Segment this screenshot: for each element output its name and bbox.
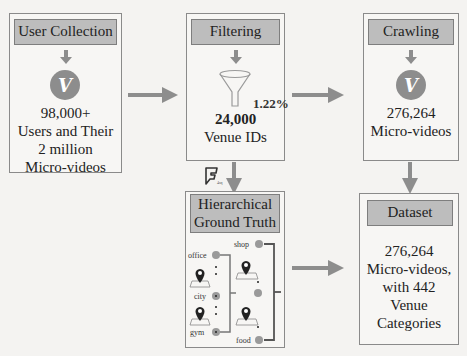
ground-truth-title-line1: Hierarchical xyxy=(198,196,272,213)
foursquare-sub: 4sq xyxy=(217,180,223,185)
vine-logo-icon: V xyxy=(50,70,80,100)
vine-logo-icon: V xyxy=(396,70,426,100)
ground-truth-title-line2: Ground Truth xyxy=(194,214,276,231)
dataset-categories-label: Categories xyxy=(360,314,458,332)
svg-text:gym: gym xyxy=(190,328,205,337)
venue-hierarchy-tree: office city gym shop food xyxy=(186,237,286,347)
down-arrow-icon xyxy=(402,50,422,70)
ground-truth-header: Hierarchical Ground Truth xyxy=(190,194,280,233)
dataset-venue-label: Venue xyxy=(360,296,458,314)
video-count: 276,264 xyxy=(364,104,458,122)
filtering-header: Filtering xyxy=(191,19,280,45)
dataset-header: Dataset xyxy=(367,200,453,226)
filtering-box: Filtering 1.22% 24,000 Venue IDs xyxy=(186,13,285,161)
down-arrow-icon xyxy=(227,50,247,70)
user-collection-box: User Collection V 98,000+ Users and Thei… xyxy=(9,13,122,173)
funnel-icon xyxy=(215,70,255,110)
down-arrow-icon xyxy=(57,50,77,70)
location-pin-icon xyxy=(236,261,258,279)
crawling-header: Crawling xyxy=(368,19,454,45)
svg-text:city: city xyxy=(194,292,206,301)
videos-label: Micro-videos xyxy=(364,122,458,140)
dataset-videos-label: Micro-videos, xyxy=(360,260,458,278)
video-count: 2 million xyxy=(10,140,121,158)
user-count: 98,000+ xyxy=(10,104,121,122)
svg-text:shop: shop xyxy=(234,240,249,249)
dataset-video-count: 276,264 xyxy=(360,242,458,260)
videos-label: Micro-videos xyxy=(10,158,121,176)
location-pin-icon xyxy=(190,269,210,287)
location-pin-icon xyxy=(236,307,258,325)
venue-count: 24,000 xyxy=(187,110,284,128)
user-collection-header: User Collection xyxy=(14,19,117,45)
svg-text:food: food xyxy=(236,336,251,345)
dataset-category-count: with 442 xyxy=(360,278,458,296)
ground-truth-box: Hierarchical Ground Truth office city gy… xyxy=(185,191,285,348)
location-pin-icon xyxy=(190,307,210,325)
crawling-box: Crawling V 276,264 Micro-videos xyxy=(363,13,459,161)
users-label: Users and Their xyxy=(10,122,121,140)
dataset-box: Dataset 276,264 Micro-videos, with 442 V… xyxy=(359,193,459,345)
node-label-office: office xyxy=(188,251,207,260)
venue-label: Venue IDs xyxy=(187,128,284,146)
